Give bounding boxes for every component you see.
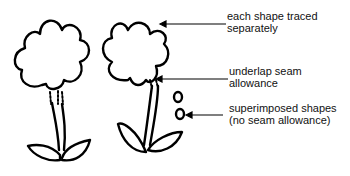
right-leaf-left-icon (118, 124, 146, 152)
arrowhead-icon (160, 21, 166, 27)
right-flower-head-icon (103, 23, 168, 85)
superimposed-circle-bottom-icon (176, 109, 184, 119)
left-leaf-right-icon (62, 140, 90, 160)
label-superimposed-shapes: superimposed shapes (no seam allowance) (229, 102, 337, 126)
appliqué-diagram: each shape traced separately underlap se… (0, 0, 350, 176)
label-underlap-seam: underlap seam allowance (229, 65, 302, 89)
left-flower-head-icon (15, 21, 89, 89)
right-leaf-right-icon (148, 132, 182, 151)
label-traced-separately: each shape traced separately (227, 10, 318, 34)
right-stem-icon (144, 86, 158, 145)
superimposed-circle-top-icon (174, 92, 182, 102)
arrowhead-icon (186, 112, 192, 118)
left-leaf-left-icon (28, 145, 60, 160)
left-stem-icon (52, 103, 65, 150)
